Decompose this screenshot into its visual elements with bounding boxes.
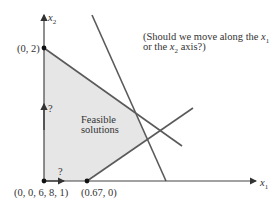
question-line2: or the x2 axis?) (143, 41, 206, 55)
top-vertex-label: (0, 2) (17, 43, 40, 55)
feasible-label-line2: solutions (81, 124, 119, 135)
lp-feasible-region-diagram: x2 x1 (0, 2) (0, 0, 6, 8, 1) (0.67, 0) ?… (0, 0, 280, 207)
right-vertex-label: (0.67, 0) (81, 187, 117, 199)
up-question-mark: ? (48, 103, 53, 114)
x2-axis-label: x2 (47, 12, 57, 26)
right-question-mark: ? (58, 166, 63, 177)
x1-axis-label: x1 (259, 177, 269, 191)
origin-label: (0, 0, 6, 8, 1) (14, 187, 69, 199)
vertex-right (85, 179, 90, 184)
vertex-top (42, 46, 47, 51)
vertex-origin (42, 179, 47, 184)
